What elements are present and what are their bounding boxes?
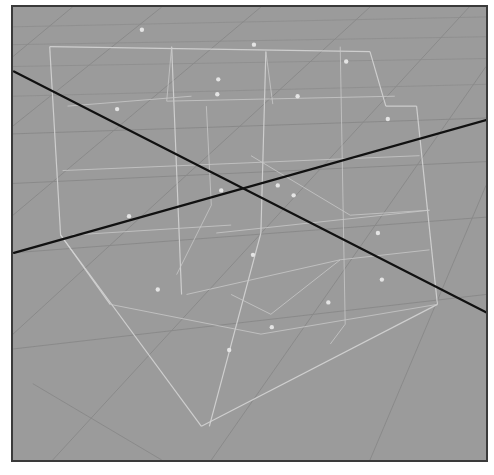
lattice-control-point[interactable] [270,325,274,329]
lattice-edge[interactable] [50,47,370,52]
grid-line [13,217,486,253]
lattice-control-point[interactable] [344,59,348,63]
lattice-control-points[interactable] [115,28,390,353]
lattice-cage-wireframe[interactable] [50,47,438,427]
lattice-edge[interactable] [61,235,111,304]
lattice-edge[interactable] [231,294,271,314]
grid-line [13,294,486,349]
lattice-edge[interactable] [172,47,182,295]
lattice-edge[interactable] [167,47,172,102]
lattice-control-point[interactable] [252,42,256,46]
grid-line [370,185,486,460]
lattice-edge[interactable] [50,47,61,235]
lattice-control-point[interactable] [380,277,384,281]
lattice-control-point[interactable] [156,287,160,291]
grid-line [13,84,486,96]
grid-line [33,384,162,460]
lattice-control-point[interactable] [251,253,255,257]
lattice-edge[interactable] [167,96,395,101]
lattice-edge[interactable] [261,52,266,233]
lattice-control-point[interactable] [127,214,131,218]
lattice-control-point[interactable] [115,107,119,111]
lattice-control-point[interactable] [376,231,380,235]
lattice-control-point[interactable] [295,94,299,98]
lattice-control-point[interactable] [219,188,223,192]
grid-line [13,17,486,27]
lattice-control-point[interactable] [386,117,390,121]
lattice-control-point[interactable] [140,28,144,32]
z-axis-line [14,120,486,253]
lattice-control-point[interactable] [227,348,231,352]
lattice-control-point[interactable] [276,183,280,187]
lattice-control-point[interactable] [215,92,219,96]
grid-line [13,118,486,134]
lattice-edge[interactable] [187,260,341,295]
lattice-edge[interactable] [330,324,345,344]
lattice-control-point[interactable] [216,77,220,81]
lattice-edge[interactable] [266,52,273,105]
grid-line [13,7,72,57]
lattice-edge[interactable] [340,250,429,260]
3d-viewport[interactable] [11,5,488,462]
scene-canvas[interactable] [13,7,486,460]
lattice-edge[interactable] [251,156,350,215]
grid-line [13,7,261,215]
lattice-control-point[interactable] [326,300,330,304]
grid-line [13,162,486,184]
lattice-control-point[interactable] [291,193,295,197]
lattice-edge[interactable] [63,156,420,171]
lattice-edge[interactable] [261,304,438,334]
grid-line [13,37,486,45]
